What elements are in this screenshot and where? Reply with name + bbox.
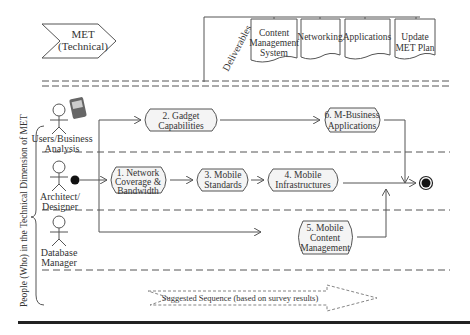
actor-label: Designer	[42, 201, 79, 212]
legend-label: Suggested Sequence (based on survey resu…	[162, 293, 319, 303]
deliverables-label: Deliverables	[220, 23, 253, 73]
suggested-sequence-legend: Suggested Sequence (based on survey resu…	[148, 285, 377, 311]
svg-text:MET Plan: MET Plan	[395, 43, 434, 53]
svg-text:Management: Management	[300, 243, 350, 253]
activity-mobile-standards[interactable]: 3. Mobile Standards	[197, 169, 248, 191]
start-node	[71, 176, 80, 185]
actor-database-manager	[50, 216, 68, 246]
svg-text:Applications: Applications	[328, 121, 377, 131]
people-dimension-label: People (Who) in the Technical Dimension …	[19, 114, 30, 307]
svg-text:Infrastructures: Infrastructures	[275, 180, 331, 190]
svg-text:Content: Content	[310, 233, 340, 243]
mobile-device-icon	[69, 97, 87, 119]
svg-text:Management: Management	[249, 38, 299, 48]
svg-text:3. Mobile: 3. Mobile	[205, 170, 242, 180]
met-technical-diagram: MET (Technical) Deliverables Content Man…	[0, 0, 470, 335]
bottom-rule	[18, 321, 470, 324]
actor-architect-designer	[50, 161, 68, 191]
svg-text:4. Mobile: 4. Mobile	[285, 170, 322, 180]
chevron-label-line2: (Technical)	[58, 40, 108, 53]
svg-text:Networking: Networking	[297, 32, 343, 42]
deliverable-applications: Applications	[343, 17, 392, 59]
deliverable-networking: Networking	[297, 17, 343, 59]
svg-text:Content: Content	[259, 28, 289, 38]
svg-text:Update: Update	[401, 32, 428, 42]
chevron-label-line1: MET	[71, 28, 95, 40]
header-separator	[42, 81, 450, 86]
svg-text:2. Gadget: 2. Gadget	[163, 111, 200, 121]
people-brace	[31, 126, 44, 305]
end-node	[420, 177, 433, 190]
activity-network-coverage[interactable]: 1. Network Coverage & Bandwidth	[111, 167, 166, 196]
svg-text:5. Mobile: 5. Mobile	[307, 223, 344, 233]
svg-text:Capabilities: Capabilities	[158, 121, 204, 131]
svg-text:6. M-Business: 6. M-Business	[325, 110, 380, 120]
deliverable-content-management-system: Content Management System	[249, 17, 299, 62]
svg-text:Standards: Standards	[204, 180, 242, 190]
met-technical-chevron: MET (Technical)	[42, 24, 116, 58]
activity-mobile-infrastructures[interactable]: 4. Mobile Infrastructures	[268, 169, 338, 191]
svg-text:Applications: Applications	[343, 32, 392, 42]
svg-text:Bandwidth: Bandwidth	[117, 186, 159, 196]
activity-mobile-content-management[interactable]: 5. Mobile Content Management	[299, 221, 353, 254]
actor-label: Analysis	[45, 143, 80, 154]
actor-users-business-analysis	[50, 104, 68, 134]
activity-m-business-applications[interactable]: 6. M-Business Applications	[325, 108, 380, 132]
svg-text:System: System	[260, 48, 289, 58]
activity-gadget-capabilities[interactable]: 2. Gadget Capabilities	[145, 109, 217, 131]
actor-label: Manager	[41, 257, 77, 268]
deliverable-update-met-plan: Update MET Plan	[395, 17, 435, 59]
swimlane-dividers	[42, 152, 450, 270]
